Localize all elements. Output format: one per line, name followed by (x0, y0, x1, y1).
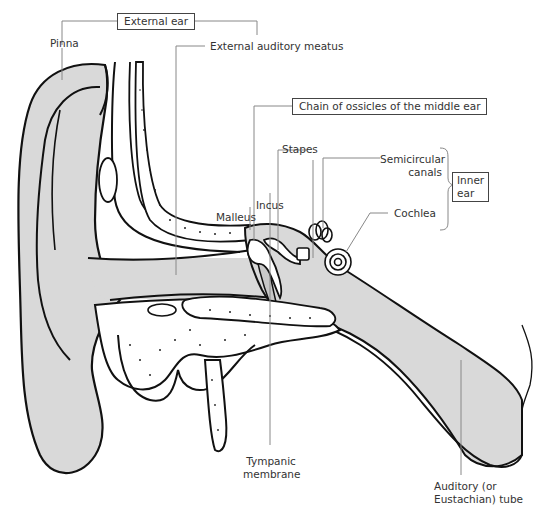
incus-label: Incus (256, 199, 284, 212)
stapes-label: Stapes (282, 143, 318, 156)
stapes-shape (297, 248, 309, 260)
external-ear-box: External ear (117, 13, 195, 30)
ossicles-box: Chain of ossicles of the middle ear (292, 98, 487, 115)
cochlea-shape (325, 249, 351, 275)
inner-ear-box: Inner ear (452, 172, 489, 202)
malleus-label: Malleus (216, 211, 256, 224)
semicircular-canals-shape (309, 221, 332, 242)
pinna-label: Pinna (50, 37, 79, 50)
cochlea-label: Cochlea (394, 207, 436, 220)
ear-diagram: External ear Pinna External auditory mea… (0, 0, 542, 507)
meatus-label: External auditory meatus (210, 40, 343, 53)
tympanic-membrane-label: Tympanic membrane (243, 455, 299, 481)
ear-illustration (0, 0, 542, 507)
auditory-tube-label: Auditory (or Eustachian) tube (434, 480, 523, 506)
semicircular-canals-label: Semicircular canals (380, 153, 442, 179)
styloid-process (205, 360, 226, 451)
